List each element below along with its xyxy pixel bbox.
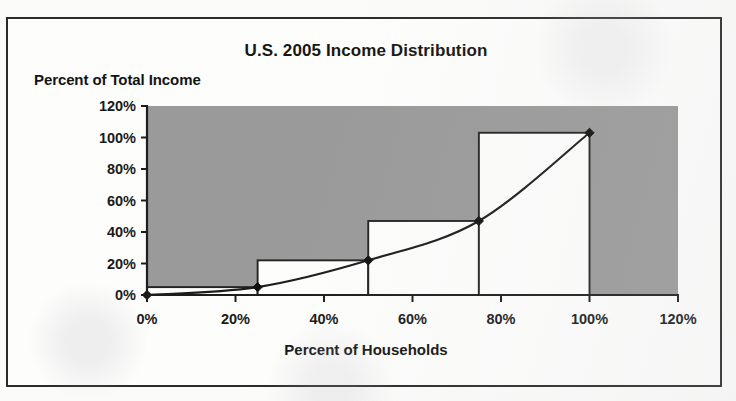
x-axis-ticks: 0%20%40%60%80%100%120%: [137, 295, 697, 327]
x-axis-title: Percent of Households: [8, 341, 724, 358]
x-tick-label-4: 80%: [486, 311, 515, 327]
x-tick-label-0: 0%: [137, 311, 158, 327]
y-axis-ticks: 0%20%40%60%80%100%120%: [99, 98, 147, 303]
bar-3: [368, 221, 479, 295]
y-tick-label-1: 20%: [107, 256, 136, 272]
y-tick-label-0: 0%: [115, 287, 136, 303]
y-tick-label-5: 100%: [99, 130, 136, 146]
y-tick-label-3: 60%: [107, 193, 136, 209]
x-tick-label-6: 120%: [659, 311, 696, 327]
chart-frame: U.S. 2005 Income Distribution Percent of…: [6, 17, 722, 387]
plot-area: 0%20%40%60%80%100%120% 0%20%40%60%80%100…: [8, 19, 724, 389]
y-tick-label-6: 120%: [99, 98, 136, 114]
y-tick-label-4: 80%: [107, 161, 136, 177]
x-tick-label-5: 100%: [571, 311, 608, 327]
bar-4: [479, 133, 590, 295]
x-tick-label-3: 60%: [398, 311, 427, 327]
y-tick-label-2: 40%: [107, 224, 136, 240]
x-tick-label-1: 20%: [221, 311, 250, 327]
chart-page: U.S. 2005 Income Distribution Percent of…: [0, 0, 736, 401]
x-tick-label-2: 40%: [309, 311, 338, 327]
